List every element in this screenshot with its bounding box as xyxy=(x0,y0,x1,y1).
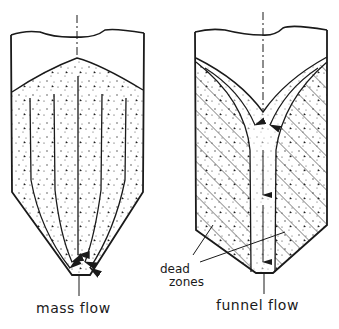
funnel-flow-caption: funnel flow xyxy=(216,297,299,313)
funnel-flow-silo xyxy=(193,12,327,294)
dead-zones-label: dead zones xyxy=(160,263,204,289)
mass-flow-silo xyxy=(11,15,144,296)
mass-flow-caption: mass flow xyxy=(36,300,111,316)
dead-zones-label-line2: zones xyxy=(160,276,204,289)
silo-top-edge xyxy=(195,26,327,35)
